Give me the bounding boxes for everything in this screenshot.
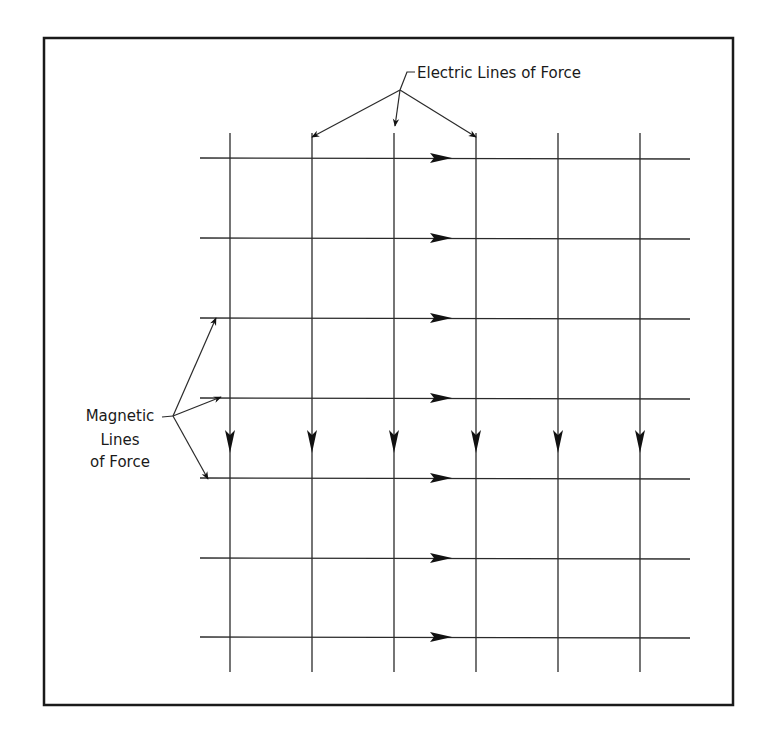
electric-leader-arrow-icon xyxy=(400,90,476,137)
magnetic-leader-stem xyxy=(162,416,173,417)
electric-lines-group xyxy=(225,133,645,672)
magnetic-lines-group xyxy=(200,153,690,642)
magnetic-leader-arrow-icon xyxy=(173,416,208,479)
diagram-frame xyxy=(44,38,733,705)
electromagnetic-field-diagram: Electric Lines of Force Magnetic Lines o… xyxy=(0,0,763,744)
electric-lines-label-group: Electric Lines of Force xyxy=(312,64,581,137)
electric-lines-label: Electric Lines of Force xyxy=(417,64,581,82)
electric-leader-arrow-icon xyxy=(312,90,400,137)
magnetic-label-line-2: Lines xyxy=(100,431,139,449)
diagram-canvas: Electric Lines of Force Magnetic Lines o… xyxy=(0,0,763,744)
magnetic-label-line-1: Magnetic xyxy=(86,407,155,425)
electric-leader-stem xyxy=(400,72,415,90)
electric-leader-arrow-icon xyxy=(395,90,400,126)
magnetic-label-line-3: of Force xyxy=(90,453,150,471)
